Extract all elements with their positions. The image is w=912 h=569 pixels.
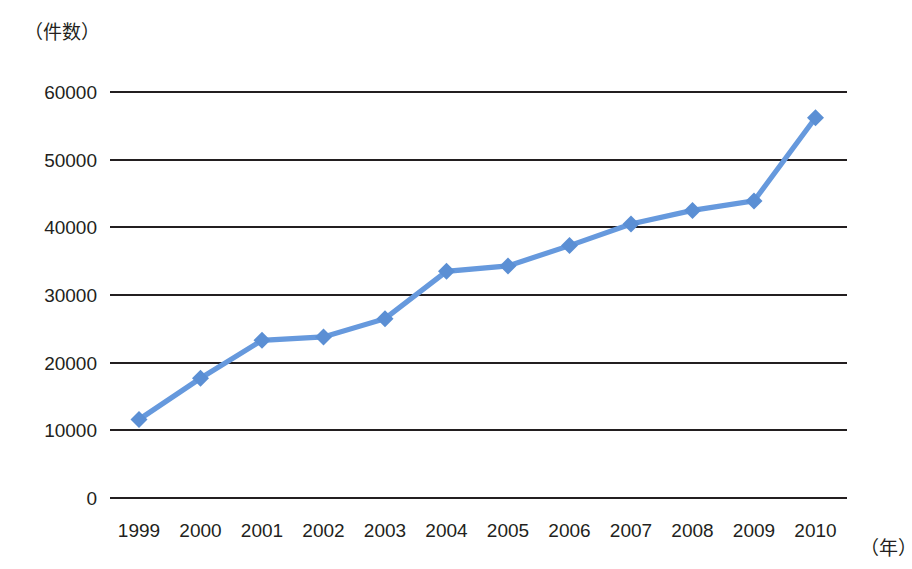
y-axis-tick-label: 30000	[44, 285, 97, 306]
x-axis-tick-label: 2009	[733, 520, 775, 541]
y-axis-tick-label: 60000	[44, 82, 97, 103]
x-axis-tick-label: 2008	[671, 520, 713, 541]
gridlines	[110, 92, 847, 498]
x-axis-tick-label: 2001	[241, 520, 283, 541]
data-point-marker	[561, 237, 578, 254]
x-axis-tick-label: 2006	[548, 520, 590, 541]
data-point-marker	[684, 202, 701, 219]
x-axis-tick-label: 2010	[794, 520, 836, 541]
series-line	[139, 118, 816, 420]
y-axis-tick-labels: 0100002000030000400005000060000	[44, 82, 97, 509]
data-point-marker	[500, 257, 517, 274]
x-axis-unit-label: （年）	[860, 533, 912, 560]
y-axis-tick-label: 20000	[44, 353, 97, 374]
x-axis-tick-label: 2007	[610, 520, 652, 541]
y-axis-tick-label: 0	[86, 488, 97, 509]
chart-plot-area: 0100002000030000400005000060000 19992000…	[0, 0, 912, 569]
y-axis-tick-label: 40000	[44, 217, 97, 238]
x-axis-tick-label: 2003	[364, 520, 406, 541]
x-axis-tick-label: 2002	[302, 520, 344, 541]
data-point-marker	[315, 328, 332, 345]
data-series	[131, 109, 825, 428]
line-chart: （件数） 0100002000030000400005000060000 199…	[0, 0, 912, 569]
y-axis-tick-label: 10000	[44, 420, 97, 441]
y-axis-tick-label: 50000	[44, 150, 97, 171]
x-axis-tick-label: 2000	[179, 520, 221, 541]
x-axis-tick-label: 2004	[425, 520, 468, 541]
x-axis-tick-labels: 1999200020012002200320042005200620072008…	[118, 520, 837, 541]
x-axis-tick-label: 1999	[118, 520, 160, 541]
data-point-marker	[623, 215, 640, 232]
x-axis-tick-label: 2005	[487, 520, 529, 541]
